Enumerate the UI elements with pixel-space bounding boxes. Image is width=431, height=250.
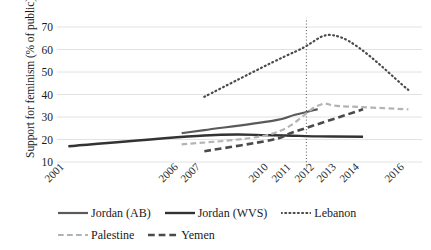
legend-row-secondary: PalestineYemen [58, 226, 229, 244]
line-chart: Support for feminism (% of public) 10203… [0, 0, 431, 250]
legend-label: Palestine [91, 228, 134, 243]
legend-swatch-dotted-icon [281, 207, 311, 219]
legend-swatch-dashed-icon [148, 229, 178, 241]
legend-item-palestine[interactable]: Palestine [58, 228, 134, 243]
y-tick-label: 30 [42, 111, 54, 123]
series-line-jordan-wvs [68, 134, 363, 146]
legend-label: Lebanon [314, 206, 356, 221]
series-line-palestine [182, 104, 409, 145]
legend-row-primary: Jordan (AB)Jordan (WVS)Lebanon [58, 204, 370, 222]
legend-label: Jordan (WVS) [198, 206, 268, 221]
legend-item-jordan-ab[interactable]: Jordan (AB) [58, 206, 151, 221]
y-axis-tick-labels: 10203040506070 [0, 18, 57, 171]
plot-area [57, 18, 422, 171]
legend-label: Jordan (AB) [91, 206, 151, 221]
y-tick-label: 50 [42, 66, 54, 78]
legend-swatch-solid-icon [58, 207, 88, 219]
y-tick-label: 40 [42, 89, 54, 101]
y-tick-label: 60 [42, 44, 54, 56]
y-tick-label: 20 [42, 134, 54, 146]
legend-item-yemen[interactable]: Yemen [148, 228, 214, 243]
legend-item-lebanon[interactable]: Lebanon [281, 206, 356, 221]
legend-label: Yemen [181, 228, 214, 243]
legend-swatch-dashed-icon [58, 229, 88, 241]
plot-svg [57, 18, 422, 171]
chart-legend: Jordan (AB)Jordan (WVS)Lebanon Palestine… [0, 200, 431, 250]
y-tick-label: 70 [42, 21, 54, 33]
legend-swatch-solid-icon [165, 207, 195, 219]
legend-item-jordan-wvs[interactable]: Jordan (WVS) [165, 206, 268, 221]
